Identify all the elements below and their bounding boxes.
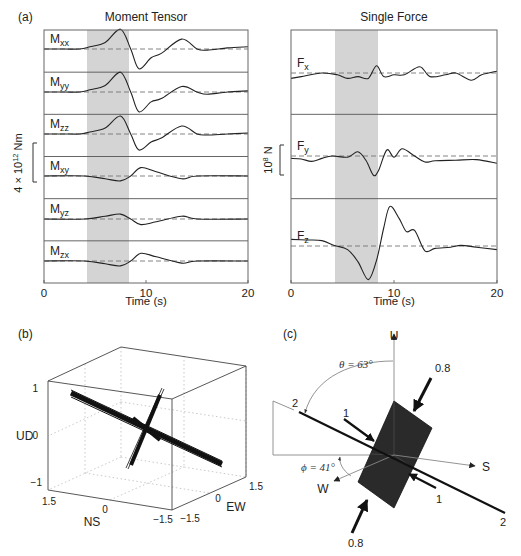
axis-2-label-lower: 2 [500, 516, 506, 528]
svg-text:1.5: 1.5 [42, 496, 56, 507]
x-tick-label: 0 [288, 287, 294, 299]
trace-label-Mzz: Mzz [50, 117, 70, 133]
trace-Fy [291, 149, 497, 176]
moment-tensor-title: Moment Tensor [105, 10, 187, 24]
single-force-axes [291, 30, 497, 283]
force-scale-bar [280, 145, 284, 175]
svg-text:1: 1 [32, 383, 38, 394]
svg-text:−1.5: −1.5 [153, 514, 173, 525]
phi-label: ϕ = 41° [301, 461, 336, 473]
up-axis-label: U [390, 329, 399, 343]
x-tick-label: 20 [242, 287, 255, 299]
trace-Fz [291, 206, 497, 279]
principal-axis-bundle-1 [126, 388, 164, 469]
trace-label-Myy: Myy [50, 75, 70, 91]
south-axis-label: S [482, 460, 490, 474]
moment-tensor-ylabel: 4 × 1012 Nm [11, 133, 24, 192]
figure-canvas: (a) Moment Tensor MxxMyyMzzMxyMyzMzx 010… [0, 0, 521, 556]
ns-axis-label: NS [84, 515, 101, 529]
trace-label-Mxx: Mxx [50, 32, 70, 48]
force-arrow-left [344, 419, 374, 441]
svg-text:−1: −1 [31, 477, 43, 488]
trace-Mzz [44, 116, 248, 150]
moment-scale-bar [33, 143, 37, 182]
ew-axis-label: EW [226, 500, 246, 514]
svg-text:0: 0 [102, 504, 108, 515]
force-right-label: 1 [436, 493, 442, 505]
x-tick-label: 20 [491, 287, 504, 299]
single-force-traces: FxFyFz [291, 56, 497, 280]
force-bottom-label: 0.8 [348, 537, 363, 549]
trace-label-Fz: Fz [297, 229, 309, 245]
moment-tensor-xlabel: Time (s) [125, 295, 167, 307]
trace-Mzx [44, 253, 248, 266]
trace-label-Mxy: Mxy [50, 159, 70, 175]
trace-label-Myz: Myz [50, 202, 70, 218]
x-tick-label: 0 [41, 287, 47, 299]
panel-a-moment-tensor: (a) Moment Tensor MxxMyyMzzMxyMyzMzx 010… [11, 10, 254, 307]
west-axis-label: W [317, 482, 329, 496]
svg-text:1.5: 1.5 [249, 481, 263, 492]
trace-Fx [291, 66, 497, 80]
axis-2-label-upper: 2 [292, 397, 298, 409]
panel-c-label: (c) [283, 327, 297, 341]
panel-b-label: (b) [18, 327, 33, 341]
single-force-xlabel: Time (s) [373, 295, 415, 307]
svg-text:0: 0 [215, 493, 221, 504]
trace-label-Fx: Fx [297, 56, 309, 72]
fault-plane [358, 401, 432, 508]
phi-arc [340, 457, 351, 476]
trace-label-Fy: Fy [297, 139, 309, 155]
trace-Myz [44, 214, 248, 225]
panel-a-label: (a) [18, 10, 33, 24]
force-top-label: 0.8 [435, 362, 450, 374]
trace-label-Mzx: Mzx [50, 244, 70, 260]
force-arrow-bottom [352, 500, 367, 533]
single-force-title: Single Force [360, 10, 428, 24]
panel-a-single-force: Single Force FxFyFz 01020 Time (s) 108 N [261, 10, 503, 307]
panel-c-diagram: (c) U θ = 63° S W ϕ = 41° 2 2 0.8 0.8 1 [273, 327, 506, 549]
force-arrow-top [414, 378, 431, 411]
trace-Myy [44, 72, 248, 112]
force-left-label: 1 [343, 407, 349, 419]
moment-tensor-traces: MxxMyyMzzMxyMyzMzx [44, 29, 248, 266]
theta-label: θ = 63° [339, 358, 373, 370]
trace-Mxy [44, 167, 248, 180]
trace-Mxx [44, 29, 248, 69]
svg-text:−1.5: −1.5 [180, 513, 200, 524]
ud-axis-label: UD [16, 429, 34, 443]
single-force-ylabel: 108 N [261, 146, 274, 173]
panel-b-3d-plot: (b) [16, 327, 263, 529]
